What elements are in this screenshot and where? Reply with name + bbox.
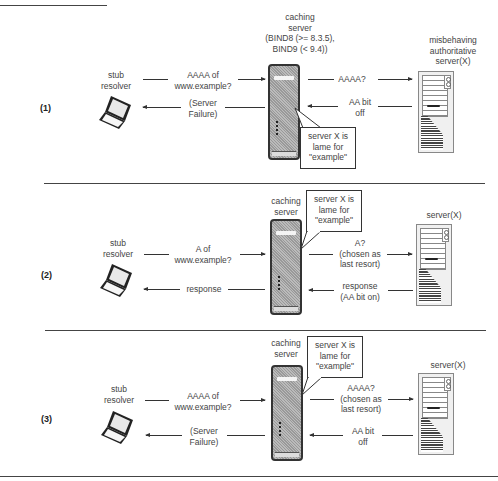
auth-server-label: server(X) xyxy=(414,210,474,221)
auth-server-label: misbehaving authoritative server(X) xyxy=(413,35,493,67)
callout-tail xyxy=(300,377,330,397)
upstream-reply-arrow xyxy=(308,106,338,107)
upstream-reply-label: AA bit off xyxy=(345,426,381,447)
authoritative-server-icon xyxy=(418,373,454,455)
upstream-reply-line-right xyxy=(378,106,412,107)
query-arrow xyxy=(240,254,265,255)
upstream-query-arrow xyxy=(378,79,412,80)
query-line-left xyxy=(145,400,169,401)
upstream-query-line-left xyxy=(310,399,334,400)
reply-line-right xyxy=(225,107,265,108)
caching-server-label: caching server xyxy=(266,196,306,217)
upstream-query-arrow xyxy=(388,399,413,400)
panel-separator xyxy=(45,330,486,331)
panel-label: (1) xyxy=(40,103,51,113)
upstream-query-label: AAAA? xyxy=(335,74,369,85)
reply-label: (Server Failure) xyxy=(183,426,225,447)
stub-resolver-label: stub resolver xyxy=(96,70,136,91)
reply-arrow xyxy=(143,107,181,108)
upstream-query-label: AAAA? (chosen as last resort) xyxy=(335,383,387,415)
reply-line-right xyxy=(227,435,265,436)
panel-label: (3) xyxy=(41,414,52,424)
reply-line-right xyxy=(228,289,265,290)
stub-resolver-label: stub resolver xyxy=(99,384,139,405)
upstream-query-line-left xyxy=(308,79,334,80)
lame-server-callout: server X is lame for "example" xyxy=(307,336,363,378)
laptop-icon xyxy=(99,408,139,446)
authoritative-server-icon xyxy=(418,71,454,153)
bottom-rule xyxy=(0,476,498,477)
query-label: AAAA of www.example? xyxy=(170,391,236,412)
upstream-reply-arrow xyxy=(309,290,334,291)
upstream-reply-label: response (AA bit on) xyxy=(335,281,385,302)
stub-resolver-label: stub resolver xyxy=(98,238,138,259)
query-line-left xyxy=(144,254,169,255)
query-label: AAAA of www.example? xyxy=(170,70,236,91)
panel-separator xyxy=(44,183,485,184)
panel-label: (2) xyxy=(41,270,52,280)
query-label: A of www.example? xyxy=(170,244,236,265)
query-line-left xyxy=(143,79,168,80)
reply-arrow xyxy=(146,435,182,436)
query-arrow xyxy=(240,400,265,401)
lame-server-callout: server X is lame for "example" xyxy=(306,190,362,232)
lame-server-callout: server X is lame for "example" xyxy=(300,127,356,169)
upstream-reply-line-right xyxy=(382,435,413,436)
reply-arrow xyxy=(144,289,180,290)
upstream-reply-line-right xyxy=(388,290,413,291)
title-underline xyxy=(0,5,107,6)
caching-server-label: caching server (BIND8 (>= 8.3.5), BIND9 … xyxy=(260,12,340,54)
laptop-icon xyxy=(97,93,137,131)
upstream-reply-arrow xyxy=(310,435,343,436)
authoritative-server-icon xyxy=(416,224,452,306)
upstream-query-line-left xyxy=(309,254,333,255)
caching-server-icon xyxy=(270,219,302,315)
upstream-query-label: A? (chosen as last resort) xyxy=(335,238,385,270)
reply-label: response xyxy=(182,284,226,295)
upstream-reply-label: AA bit off xyxy=(340,97,380,118)
query-arrow xyxy=(238,79,265,80)
upstream-query-arrow xyxy=(387,254,412,255)
auth-server-label: server(X) xyxy=(418,360,478,371)
callout-tail xyxy=(299,231,329,251)
caching-server-label: caching server xyxy=(266,338,306,359)
reply-label: (Server Failure) xyxy=(182,98,224,119)
laptop-icon xyxy=(98,261,138,299)
caching-server-icon xyxy=(271,365,303,461)
